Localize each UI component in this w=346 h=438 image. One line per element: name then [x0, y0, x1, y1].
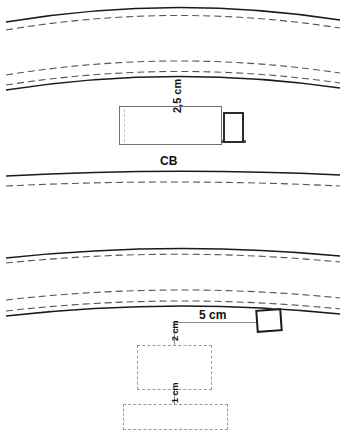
leader-line-5cm [174, 322, 258, 323]
dimension-label-2-cm: 2 cm [171, 320, 180, 341]
arc-lower-solid [6, 306, 340, 316]
dimension-label-2-5-cm: 2,5 cm [172, 79, 183, 113]
arc-lower-dashed-outer [6, 290, 340, 300]
arc-below-cb-solid [6, 171, 340, 176]
arc-top-dashed [6, 15, 340, 30]
technical-diagram: 2,5 cm CB 5 cm 2 cm 1 cm [0, 0, 346, 438]
arc-top-solid [6, 7, 340, 22]
cb-label: CB [160, 155, 177, 167]
dimension-label-1-cm: 1 cm [171, 382, 180, 403]
dashed-rect-lower [123, 404, 228, 430]
main-body-inner-dashed-edge [124, 109, 219, 142]
tilted-square [255, 308, 283, 333]
arc-second-dashed-outer [6, 61, 340, 75]
arc-middle-solid [6, 248, 340, 258]
attachment-square [223, 112, 244, 143]
dimension-label-5-cm: 5 cm [199, 309, 226, 321]
arc-middle-dashed [6, 254, 340, 263]
arc-below-cb-dashed [6, 182, 340, 186]
